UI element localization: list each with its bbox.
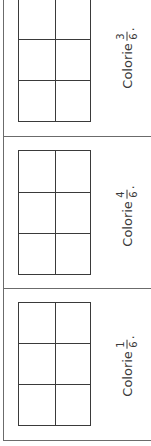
fraction-denominator: 6 bbox=[129, 190, 139, 198]
instruction-text: Colorie bbox=[120, 43, 135, 89]
fraction: 3 6 bbox=[116, 32, 139, 41]
panel-divider bbox=[3, 288, 151, 289]
instruction-label-1: Colorie 3 6 . bbox=[116, 27, 139, 88]
grid-divider-horizontal bbox=[19, 343, 90, 344]
grid-divider-horizontal bbox=[19, 233, 90, 234]
fraction-numerator: 3 bbox=[116, 32, 126, 40]
worksheet-frame-bottom bbox=[3, 440, 151, 441]
period: . bbox=[122, 185, 136, 189]
worksheet-frame-left bbox=[3, 0, 4, 441]
fraction-numerator: 4 bbox=[116, 190, 126, 198]
panel-divider bbox=[3, 136, 151, 137]
grid-divider-horizontal bbox=[19, 39, 90, 40]
grid-divider-vertical bbox=[55, 0, 56, 121]
fraction-denominator: 6 bbox=[129, 32, 139, 40]
instruction-label-2: Colorie 4 6 . bbox=[116, 185, 139, 246]
grid-divider-vertical bbox=[55, 303, 56, 425]
grid-divider-horizontal bbox=[19, 192, 90, 193]
instruction-text: Colorie bbox=[120, 351, 135, 397]
grid-divider-vertical bbox=[55, 151, 56, 274]
fraction-denominator: 6 bbox=[129, 340, 139, 348]
period: . bbox=[122, 335, 136, 339]
grid-divider-horizontal bbox=[19, 80, 90, 81]
instruction-label-3: Colorie 1 6 . bbox=[116, 335, 139, 396]
fraction-grid-2[interactable] bbox=[18, 150, 91, 275]
fraction-grid-3[interactable] bbox=[18, 302, 91, 426]
fraction-numerator: 1 bbox=[116, 340, 126, 348]
fraction: 1 6 bbox=[116, 340, 139, 349]
fraction-grid-1[interactable] bbox=[18, 0, 91, 122]
fraction: 4 6 bbox=[116, 190, 139, 199]
instruction-text: Colorie bbox=[120, 201, 135, 247]
grid-divider-horizontal bbox=[19, 384, 90, 385]
period: . bbox=[122, 27, 136, 31]
